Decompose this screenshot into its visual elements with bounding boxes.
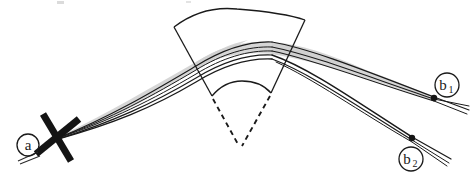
dashed-left-radius xyxy=(213,99,239,146)
label-b1-text: b xyxy=(439,77,447,93)
label-b2: b 2 xyxy=(399,147,423,171)
node-b2-dot xyxy=(409,135,415,141)
sector-outer-arc xyxy=(174,9,305,27)
label-b2-subscript: 2 xyxy=(413,158,418,169)
node-b1-dot xyxy=(431,95,437,101)
scan-artifacts xyxy=(57,1,191,4)
label-a: a xyxy=(17,134,39,156)
sector-inner-arc xyxy=(212,81,271,96)
outgoing-b2-ray-3 xyxy=(276,62,412,142)
ray-trace-figure: a b 1 b 2 xyxy=(0,0,471,180)
label-b1-subscript: 1 xyxy=(449,84,454,95)
scan-speck-1-icon xyxy=(57,1,64,4)
figure-canvas: a b 1 b 2 xyxy=(0,0,471,180)
source-whisker-2 xyxy=(20,156,40,164)
source-cross-stroke-2 xyxy=(36,119,79,154)
label-b2-text: b xyxy=(403,151,411,167)
detector-nodes xyxy=(409,95,437,141)
ray-band-fill xyxy=(58,40,434,140)
scan-speck-2-icon xyxy=(186,1,191,3)
outgoing-b1-tail-2 xyxy=(434,99,469,106)
label-b1: b 1 xyxy=(435,73,459,97)
incoming-ray-1 xyxy=(58,42,272,138)
sector-apex-dashed-lines xyxy=(213,96,270,146)
source-cross-a xyxy=(36,114,79,161)
label-a-text: a xyxy=(25,137,32,153)
dashed-right-radius xyxy=(242,96,270,146)
incoming-ray-bundle xyxy=(58,42,272,139)
